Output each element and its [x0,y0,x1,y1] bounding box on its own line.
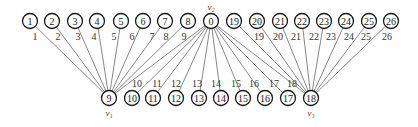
node-id-label: 5 [119,16,124,27]
vertex-name-label: v₂ [207,2,214,12]
nodes-layer: 1234567801920212223242526910111213141516… [23,14,399,106]
node-25: 25 [362,14,377,29]
node-id-label: 13 [194,93,204,104]
node-4: 4 [90,14,105,29]
node-8: 8 [181,14,196,29]
node-6: 6 [136,14,151,29]
node-9: 9 [102,91,117,106]
edge-25-18 [316,27,365,92]
node-5: 5 [114,14,129,29]
graph-diagram: 1234567891011121314151617181920212223242… [0,0,418,127]
node-26: 26 [384,14,399,29]
node-id-label: 14 [216,93,226,104]
edge-label: 23 [326,31,336,42]
node-3: 3 [68,14,83,29]
edge-2-9 [56,27,104,92]
node-14: 14 [214,91,229,106]
edge-label: 11 [152,78,162,89]
node-2: 2 [45,14,60,29]
node-id-label: 15 [238,93,248,104]
node-id-label: 21 [275,16,285,27]
edge-label: 1 [33,31,38,42]
node-id-label: 12 [171,93,181,104]
node-17: 17 [281,91,296,106]
node-id-label: 8 [186,16,191,27]
node-24: 24 [339,14,354,29]
node-id-label: 4 [95,16,100,27]
node-22: 22 [295,14,310,29]
node-13: 13 [192,91,207,106]
edge-label: 24 [344,31,354,42]
node-id-label: 3 [73,16,78,27]
node-1: 1 [23,14,38,29]
node-id-label: 19 [229,16,239,27]
edge-label: 3 [76,31,81,42]
node-20: 20 [250,14,265,29]
edge-label: 22 [309,31,319,42]
node-0: 0 [204,14,219,29]
vertex-name-label: v₃ [307,108,314,118]
edge-label: 17 [269,78,279,89]
node-id-label: 6 [141,16,146,27]
node-11: 11 [146,91,161,106]
node-15: 15 [236,91,251,106]
edge-label: 10 [132,78,142,89]
node-id-label: 23 [319,16,329,27]
edge-label: 5 [112,31,117,42]
edge-label: 18 [287,78,297,89]
edge-label: 14 [211,78,221,89]
edge-label: 19 [254,31,264,42]
node-10: 10 [125,91,140,106]
node-id-label: 25 [364,16,374,27]
node-id-label: 1 [28,16,33,27]
edge-label: 7 [150,31,155,42]
node-id-label: 26 [386,16,396,27]
node-18: 18 [304,91,319,106]
node-7: 7 [158,14,173,29]
edge-label: 13 [192,78,202,89]
edge-label: 25 [361,31,371,42]
node-id-label: 2 [50,16,55,27]
node-id-label: 22 [297,16,307,27]
node-23: 23 [317,14,332,29]
edge-label: 9 [182,31,187,42]
node-id-label: 11 [148,93,158,104]
node-21: 21 [273,14,288,29]
edge-label: 26 [382,31,392,42]
node-id-label: 7 [163,16,168,27]
node-id-label: 9 [107,93,112,104]
vertex-name-label: v₁ [105,108,112,118]
edge-label: 21 [291,31,301,42]
node-id-label: 10 [127,93,137,104]
node-12: 12 [169,91,184,106]
edge-label: 6 [130,31,135,42]
node-19: 19 [227,14,242,29]
edge-label: 8 [164,31,169,42]
node-id-label: 24 [341,16,351,27]
node-16: 16 [258,91,273,106]
edge-label: 15 [231,78,241,89]
node-id-label: 20 [252,16,262,27]
edge-label: 4 [92,31,97,42]
node-id-label: 16 [260,93,270,104]
node-id-label: 18 [306,93,316,104]
edge-label: 16 [249,78,259,89]
edge-label: 20 [273,31,283,42]
edge-label: 2 [56,31,61,42]
edge-label: 12 [171,78,181,89]
edge-labels-layer: 1234567891011121314151617181920212223242… [33,31,393,89]
node-id-label: 17 [283,93,293,104]
node-id-label: 0 [209,16,214,27]
edge-4-9 [98,28,108,90]
